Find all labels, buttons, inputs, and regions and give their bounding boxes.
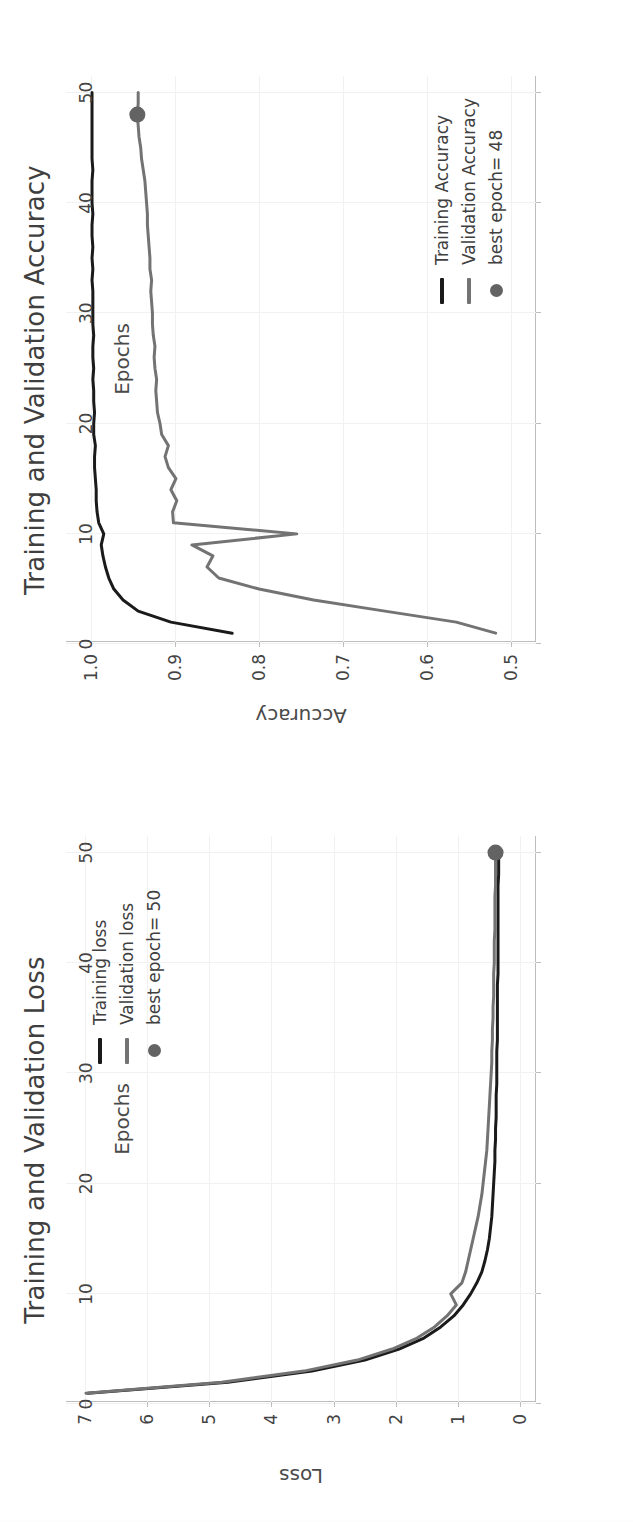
y-tick [458, 1402, 459, 1407]
x-tick [536, 1293, 541, 1294]
x-tick [536, 423, 541, 424]
accuracy-chart-region: Training and Validation Accuracy Epochs … [0, 0, 633, 760]
best-epoch-dot-icon [148, 1034, 161, 1068]
accuracy-chart: Training and Validation Accuracy Epochs … [0, 0, 633, 760]
y-tick-label: 1.0 [81, 654, 101, 681]
y-tick-label: 0.5 [501, 654, 521, 681]
legend-label-validation-accuracy: Validation Accuracy [459, 98, 479, 265]
loss-y-axis-label: Loss [279, 1464, 323, 1488]
legend-item-training-accuracy: Training Accuracy [430, 98, 454, 308]
x-tick-label: 10 [76, 1283, 96, 1305]
y-tick [175, 642, 176, 647]
legend-item-best-epoch-accuracy: best epoch= 48 [484, 98, 508, 308]
x-tick-label: 0 [76, 639, 96, 650]
training-line-swatch-icon [98, 1034, 102, 1068]
legend-label-best-epoch-accuracy: best epoch= 48 [486, 130, 506, 265]
legend-label-validation-loss: Validation loss [117, 903, 137, 1025]
accuracy-x-axis-label: Epochs [110, 76, 134, 642]
x-tick-label: 30 [76, 302, 96, 324]
validation-line-swatch-icon [125, 1034, 129, 1068]
y-tick-label: 5 [199, 1414, 219, 1425]
y-tick-label: 0.9 [165, 654, 185, 681]
x-gridline [66, 643, 536, 644]
x-tick-label: 20 [76, 1173, 96, 1195]
loss-legend: Training loss Validation loss best epoch… [88, 890, 169, 1068]
y-tick [271, 1402, 272, 1407]
y-tick [334, 1402, 335, 1407]
x-tick [536, 533, 541, 534]
legend-item-best-epoch-loss: best epoch= 50 [142, 890, 166, 1068]
y-tick [427, 642, 428, 647]
x-tick [536, 92, 541, 93]
y-tick [147, 1402, 148, 1407]
x-tick-label: 20 [76, 413, 96, 435]
x-tick [536, 1403, 541, 1404]
x-tick [536, 643, 541, 644]
x-tick-label: 50 [76, 82, 96, 104]
x-tick [536, 202, 541, 203]
y-tick [209, 1402, 210, 1407]
y-tick-label: 0.7 [333, 654, 353, 681]
accuracy-y-axis-label: Accuracy [255, 704, 346, 728]
accuracy-legend: Training Accuracy Validation Accuracy be… [430, 98, 511, 308]
y-tick-label: 0.6 [417, 654, 437, 681]
y-tick [259, 642, 260, 647]
x-tick [536, 852, 541, 853]
validation-line-swatch-icon [467, 274, 471, 308]
loss-chart-region: Training and Validation Loss Epochs Loss… [0, 760, 633, 1522]
x-tick [536, 962, 541, 963]
y-tick [396, 1402, 397, 1407]
x-tick [536, 1183, 541, 1184]
x-tick-label: 50 [76, 842, 96, 864]
loss-chart: Training and Validation Loss Epochs Loss… [0, 760, 633, 1520]
x-tick [536, 1072, 541, 1073]
y-tick-label: 4 [261, 1414, 281, 1425]
x-tick [536, 312, 541, 313]
accuracy-chart-title: Training and Validation Accuracy [20, 0, 50, 760]
y-tick-label: 3 [324, 1414, 344, 1425]
x-gridline [66, 1403, 536, 1404]
best-epoch-dot-icon [490, 274, 503, 308]
legend-label-training-accuracy: Training Accuracy [432, 115, 452, 265]
y-tick-label: 2 [386, 1414, 406, 1425]
legend-label-training-loss: Training loss [90, 920, 110, 1025]
y-tick-label: 7 [75, 1414, 95, 1425]
y-tick [511, 642, 512, 647]
y-tick-label: 0 [510, 1414, 530, 1425]
legend-item-validation-accuracy: Validation Accuracy [457, 98, 481, 308]
y-tick-label: 6 [137, 1414, 157, 1425]
x-tick-label: 0 [76, 1399, 96, 1410]
legend-label-best-epoch-loss: best epoch= 50 [144, 890, 164, 1025]
legend-item-training-loss: Training loss [88, 890, 112, 1068]
y-tick [520, 1402, 521, 1407]
x-tick-label: 10 [76, 523, 96, 545]
y-tick-label: 1 [448, 1414, 468, 1425]
training-line-swatch-icon [440, 274, 444, 308]
best-epoch-marker [488, 845, 504, 861]
y-tick [343, 642, 344, 647]
scanned-figure-page: Training and Validation Accuracy Epochs … [0, 0, 633, 1522]
legend-item-validation-loss: Validation loss [115, 890, 139, 1068]
loss-chart-title: Training and Validation Loss [20, 760, 50, 1520]
x-tick-label: 40 [76, 192, 96, 214]
y-tick-label: 0.8 [249, 654, 269, 681]
